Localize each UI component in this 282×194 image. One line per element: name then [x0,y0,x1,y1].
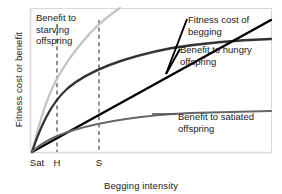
annotation-benefit-to-hungry-offspring: Benefit to hungry offspring [180,44,252,67]
x-tick-label-h: H [54,157,61,168]
annotation-benefit-to-starving-offspring: Benefit to starving offspring [36,12,76,47]
annotation-benefit-to-satiated-offspring: Benefit to satiated offspring [178,111,254,134]
chart-root: Fitness cost or benefit Begging intensit… [0,0,282,194]
annotation-fitness-cost-of-begging: Fitness cost of begging [188,14,249,37]
y-axis-label: Fitness cost or benefit [13,15,24,145]
x-tick-label-s: S [96,157,102,168]
x-axis-label: Begging intensity [0,180,282,191]
x-tick-label-sat: Sat [30,157,44,168]
